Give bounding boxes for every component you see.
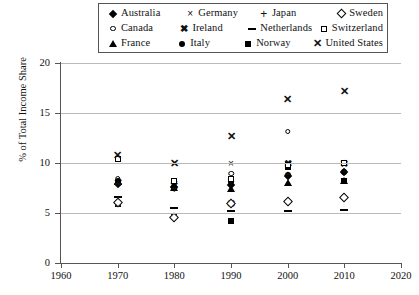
legend-row: FranceItalyNorway✕United States [105, 36, 383, 51]
legend-label: Italy [190, 38, 210, 49]
y-tick-label: 10 [10, 158, 50, 169]
legend-item-united-states[interactable]: ✕United States [309, 36, 383, 51]
plot-area [61, 63, 401, 263]
gridline [61, 163, 401, 164]
legend-label: United States [325, 38, 383, 49]
legend-label: France [121, 38, 150, 49]
marker-star-bold: ✖ [180, 24, 188, 34]
legend-item-australia[interactable]: Australia [105, 6, 182, 21]
y-tick-label: 0 [10, 258, 50, 269]
legend-item-italy[interactable]: Italy [174, 36, 240, 51]
legend-label: Sweden [349, 8, 383, 19]
marker-times-bold: ✕ [313, 38, 322, 49]
x-tick-label: 1960 [41, 271, 81, 282]
legend-label: Norway [256, 38, 290, 49]
legend-row: Australia×Germany+JapanSweden [105, 6, 383, 21]
legend-label: Netherlands [260, 23, 312, 34]
legend-item-canada[interactable]: Canada [105, 21, 176, 36]
x-tick-label: 1970 [98, 271, 138, 282]
x-tick-label: 2000 [268, 271, 308, 282]
legend-marker: + [256, 8, 272, 20]
marker-dash [248, 28, 256, 30]
gridline [61, 63, 401, 64]
x-tick [174, 263, 175, 268]
legend-item-sweden[interactable]: Sweden [333, 6, 383, 21]
legend-item-ireland[interactable]: ✖Ireland [176, 21, 244, 36]
y-tick-label: 15 [10, 108, 50, 119]
legend-item-japan[interactable]: +Japan [256, 6, 333, 21]
legend-marker [316, 26, 332, 32]
legend-label: Australia [121, 8, 160, 19]
legend-label: Ireland [192, 23, 222, 34]
x-tick [61, 263, 62, 268]
y-tick-label: 20 [10, 58, 50, 69]
x-tick-label: 1990 [211, 271, 251, 282]
marker-times-thin: × [187, 9, 193, 19]
marker-diamond-filled [109, 9, 117, 17]
legend-item-netherlands[interactable]: Netherlands [244, 21, 315, 36]
legend-marker [333, 10, 349, 17]
legend-item-norway[interactable]: Norway [240, 36, 309, 51]
marker-circle-filled [179, 41, 185, 47]
marker-square-open [321, 26, 327, 32]
marker-diamond-open [336, 9, 346, 19]
x-tick-label: 2010 [324, 271, 364, 282]
legend-label: Japan [272, 8, 296, 19]
legend-item-france[interactable]: France [105, 36, 174, 51]
x-tick-label: 2020 [381, 271, 419, 282]
legend-label: Switzerland [332, 23, 383, 34]
marker-plus: + [260, 8, 267, 20]
marker-circle-open [110, 26, 116, 32]
legend-label: Canada [121, 23, 153, 34]
marker-triangle-filled [109, 40, 117, 47]
y-tick-label: 5 [10, 208, 50, 219]
legend-marker [105, 11, 121, 17]
gridline [61, 113, 401, 114]
chart-legend: Australia×Germany+JapanSwedenCanada✖Irel… [98, 3, 388, 53]
legend-label: Germany [198, 8, 238, 19]
legend-marker [174, 41, 190, 47]
legend-marker [244, 28, 260, 30]
legend-marker [240, 41, 256, 47]
x-tick [118, 263, 119, 268]
legend-marker: ✕ [309, 38, 325, 49]
legend-marker: ✖ [176, 24, 192, 34]
chart-figure: Australia×Germany+JapanSwedenCanada✖Irel… [0, 0, 419, 295]
legend-item-switzerland[interactable]: Switzerland [316, 21, 383, 36]
x-tick-label: 1980 [154, 271, 194, 282]
legend-item-germany[interactable]: ×Germany [182, 6, 256, 21]
x-tick [288, 263, 289, 268]
legend-marker: × [182, 9, 198, 19]
x-tick [401, 263, 402, 268]
x-tick [344, 263, 345, 268]
x-tick [231, 263, 232, 268]
marker-square-filled [245, 41, 251, 47]
legend-marker [105, 26, 121, 32]
gridline [61, 213, 401, 214]
legend-row: Canada✖IrelandNetherlandsSwitzerland [105, 21, 383, 36]
legend-marker [105, 40, 121, 47]
